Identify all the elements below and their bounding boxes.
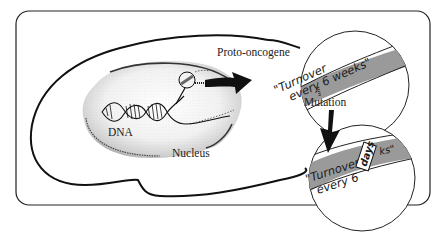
label-mutation: Mutation — [304, 96, 346, 108]
label-nucleus: Nucleus — [172, 147, 210, 159]
inset-mutated-gene: "Turnover every 6 ks" days — [292, 125, 415, 231]
diagram-canvas: "Turnover every 6 weeks" "Turnover every… — [0, 0, 444, 249]
label-dna: DNA — [108, 126, 134, 138]
inset-proto-oncogene: "Turnover every 6 weeks" — [270, 31, 420, 139]
label-proto-oncogene: Proto-oncogene — [217, 46, 290, 59]
